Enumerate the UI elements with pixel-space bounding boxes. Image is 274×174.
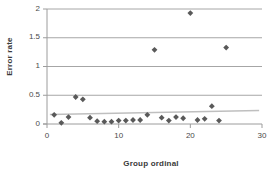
y-axis-title: Error rate xyxy=(5,27,14,87)
data-point xyxy=(223,45,229,51)
data-point xyxy=(80,96,86,102)
data-point xyxy=(159,115,165,121)
data-point xyxy=(51,112,57,118)
data-point xyxy=(216,118,222,124)
data-point xyxy=(173,114,179,120)
y-tick-label: 0.5 xyxy=(16,90,40,99)
data-point xyxy=(66,114,72,120)
data-point xyxy=(180,115,186,121)
data-point xyxy=(87,115,93,121)
data-point xyxy=(116,118,122,124)
data-point xyxy=(130,117,136,123)
x-tick-label: 20 xyxy=(180,131,200,140)
data-point xyxy=(94,118,100,124)
y-tick-label: 1 xyxy=(16,61,40,70)
data-point xyxy=(152,47,158,53)
x-tick-label: 0 xyxy=(37,131,57,140)
data-point xyxy=(187,10,193,16)
data-point xyxy=(202,116,208,122)
x-axis-title: Group ordinal xyxy=(0,159,274,168)
plot-area xyxy=(0,0,274,174)
data-point xyxy=(137,117,143,123)
data-point xyxy=(166,118,172,124)
y-tick-label: 2 xyxy=(16,4,40,13)
data-point xyxy=(195,117,201,123)
data-point xyxy=(58,120,64,126)
scatter-chart: Error rate Group ordinal 00.511.52010203… xyxy=(0,0,274,174)
x-tick-label: 30 xyxy=(252,131,272,140)
data-series xyxy=(51,10,229,126)
x-tick-label: 10 xyxy=(109,131,129,140)
data-point xyxy=(209,103,215,109)
data-point xyxy=(123,118,129,124)
trendline xyxy=(50,110,259,114)
y-tick-label: 0 xyxy=(16,119,40,128)
y-tick-label: 1.5 xyxy=(16,32,40,41)
